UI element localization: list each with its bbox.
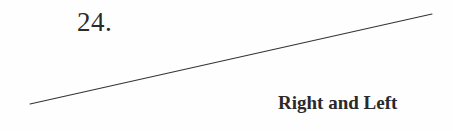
- chapter-heading-page: 24. Right and Left: [0, 0, 453, 131]
- chapter-title: Right and Left: [278, 93, 397, 112]
